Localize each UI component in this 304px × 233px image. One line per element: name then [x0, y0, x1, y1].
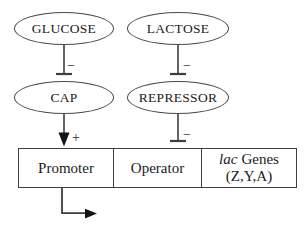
- cap-node: CAP: [14, 81, 114, 114]
- transcription-start-arrow: [62, 188, 97, 218]
- activation-connector-cap-promoter: [59, 114, 70, 147]
- lac-genes-label: lacGenes: [219, 151, 279, 168]
- cap-label: CAP: [50, 90, 77, 106]
- promoter-segment: Promoter: [19, 149, 113, 187]
- lac-genes-segment: lacGenes (Z,Y,A): [201, 149, 296, 187]
- glucose-cap-minus-sign: −: [67, 59, 75, 73]
- lac-operon-regulation-diagram: GLUCOSE LACTOSE CAP REPRESSOR − − + − Pr…: [0, 0, 304, 233]
- lac-genes-zya-label: (Z,Y,A): [226, 168, 272, 185]
- lactose-repressor-minus-sign: −: [183, 59, 191, 73]
- cap-promoter-plus-sign: +: [72, 131, 80, 145]
- repressor-node: REPRESSOR: [127, 81, 229, 114]
- lac-genes-label-italic: lac: [219, 151, 237, 167]
- repressor-operator-minus-sign: −: [183, 128, 191, 142]
- lactose-node: LACTOSE: [127, 12, 229, 45]
- dna-segment-bar: Promoter Operator lacGenes (Z,Y,A): [18, 148, 297, 188]
- repressor-label: REPRESSOR: [139, 90, 217, 106]
- lac-genes-label-rest: Genes: [241, 151, 279, 167]
- glucose-node: GLUCOSE: [14, 12, 114, 45]
- promoter-label: Promoter: [38, 160, 94, 177]
- operator-segment: Operator: [113, 149, 201, 187]
- operator-label: Operator: [131, 160, 184, 177]
- lactose-label: LACTOSE: [147, 21, 210, 37]
- glucose-label: GLUCOSE: [32, 21, 96, 37]
